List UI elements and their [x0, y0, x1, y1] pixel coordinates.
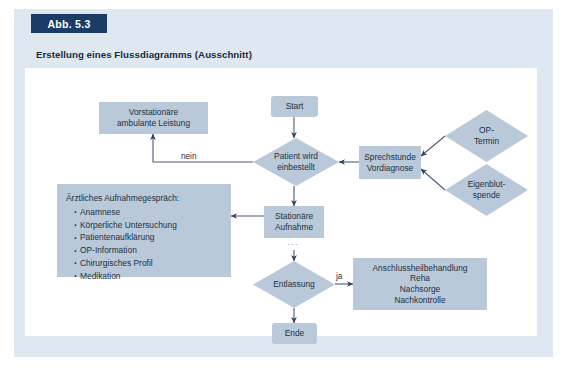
node-eigenblutspende[interactable]: Eigenblut- spende	[445, 164, 528, 216]
edge-label-ja: ja	[336, 272, 342, 281]
node-start[interactable]: Start	[271, 96, 318, 117]
node-ende[interactable]: Ende	[272, 323, 317, 344]
node-aerztliches-aufnahmegespraech[interactable]: Ärztliches Aufnahmegespräch: Anamnese Kö…	[57, 184, 231, 277]
node-entlassung-label: Entlassung	[269, 279, 318, 290]
edge-label-nein: nein	[181, 152, 196, 161]
node-stationaere-aufnahme[interactable]: Stationäre Aufnahme	[264, 206, 324, 238]
node-entlassung[interactable]: Entlassung	[253, 261, 335, 308]
node-vorstationaere-leistung[interactable]: Vorstationäre ambulante Leistung	[99, 102, 208, 134]
omitted-steps-ellipsis: ···	[287, 240, 299, 249]
node-sprechstunde-vordiagnose[interactable]: Sprechstunde Vordiagnose	[359, 146, 421, 179]
list-item: Medikation	[74, 270, 223, 283]
list-item: Anamnese	[74, 206, 223, 219]
flowchart-canvas: Start Patient wird einbestellt Vorstatio…	[25, 68, 537, 336]
node-op-termin-label: OP- Termin	[470, 125, 503, 147]
node-op-termin[interactable]: OP- Termin	[445, 110, 528, 162]
figure-panel: Abb. 5.3 Erstellung eines Flussdiagramms…	[14, 9, 553, 357]
node-stationaere-aufnahme-label: Stationäre Aufnahme	[275, 211, 313, 233]
aufnahmegespraech-heading: Ärztliches Aufnahmegespräch:	[66, 193, 223, 204]
aufnahmegespraech-list: Anamnese Körperliche Untersuchung Patien…	[66, 206, 223, 283]
node-sprechstunde-label: Sprechstunde Vordiagnose	[364, 152, 416, 174]
node-start-label: Start	[286, 101, 304, 112]
node-eigenblutspende-label: Eigenblut- spende	[464, 179, 510, 201]
node-patient-einbestellt[interactable]: Patient wird einbestellt	[253, 138, 339, 186]
figure-title: Erstellung eines Flussdiagramms (Ausschn…	[36, 49, 252, 60]
figure-number-badge: Abb. 5.3	[31, 14, 107, 33]
edge-eigenblut-to-sprechstunde	[421, 169, 445, 190]
list-item: OP-Information	[74, 244, 223, 257]
node-ende-label: Ende	[285, 328, 305, 339]
edge-patient-to-vorstationaer	[153, 134, 253, 162]
node-anschlussheilbehandlung-label: Anschlussheilbehandlung Reha Nachsorge N…	[373, 263, 468, 306]
node-anschlussheilbehandlung[interactable]: Anschlussheilbehandlung Reha Nachsorge N…	[353, 258, 487, 310]
node-patient-einbestellt-label: Patient wird einbestellt	[270, 151, 322, 173]
list-item: Chirurgisches Profil	[74, 257, 223, 270]
list-item: Körperliche Untersuchung	[74, 219, 223, 232]
edge-optermin-to-sprechstunde	[421, 136, 445, 156]
node-vorstationaere-label: Vorstationäre ambulante Leistung	[117, 107, 190, 129]
list-item: Patientenaufklärung	[74, 231, 223, 244]
